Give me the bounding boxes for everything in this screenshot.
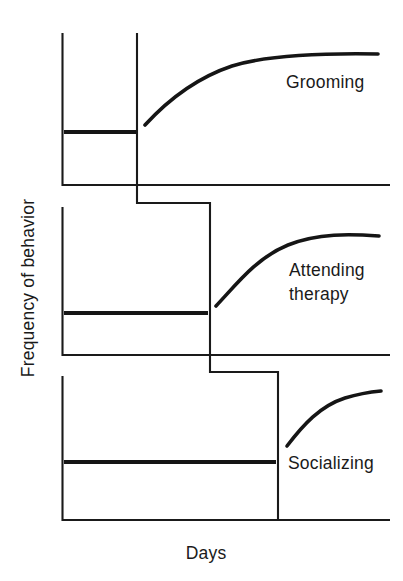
panel-attending-therapy [63,207,391,355]
multiple-baseline-chart-figure: Grooming Attending therapy Socializing D… [0,0,403,581]
panel-grooming-axes [63,33,391,185]
series-label-therapy: therapy [289,284,349,304]
y-axis-title: Frequency of behavior [18,199,38,377]
panel-socializing-treatment-curve [287,391,381,446]
series-label-attending: Attending [289,260,365,280]
panel-attending-therapy-axes [63,207,391,355]
series-label-grooming: Grooming [286,72,364,92]
series-label-socializing: Socializing [288,453,374,473]
chart-canvas: Grooming Attending therapy Socializing D… [0,0,403,581]
panel-grooming [63,33,391,185]
panel-socializing [63,376,391,520]
phase-change-staircase-line [137,33,278,520]
x-axis-title: Days [186,543,227,563]
